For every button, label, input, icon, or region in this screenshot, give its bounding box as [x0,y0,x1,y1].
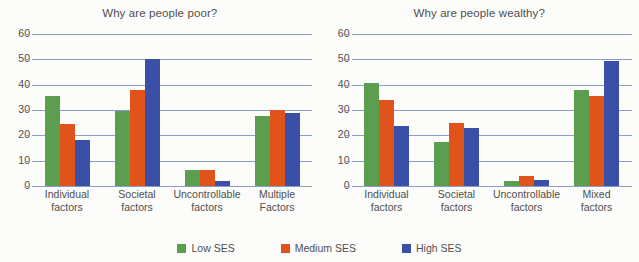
y-axis-tick-mark [25,34,30,35]
bar-medium[interactable] [589,96,604,186]
bar-high[interactable] [285,113,300,186]
bar-group [562,34,632,186]
bar-high[interactable] [604,61,619,186]
category-label-line: factors [352,201,422,214]
category-label: Uncontrollablefactors [492,188,562,228]
category-label: MultipleFactors [242,188,312,228]
bar-high[interactable] [215,181,230,186]
legend-swatch-icon [402,244,411,253]
legend-swatch-icon [177,244,186,253]
category-label-line: factors [422,201,492,214]
bar-group [492,34,562,186]
y-axis-tick-mark [25,186,30,187]
y-axis-tick-mark [25,59,30,60]
chart-panel-wealthy: Why are people wealthy? 0102030405060 In… [320,0,639,228]
bars-area-poor [32,34,312,186]
y-axis-tick-mark [345,59,350,60]
category-label-line: factors [562,201,632,214]
legend-label: High SES [416,242,462,254]
y-axis-tick-mark [345,85,350,86]
category-label-line: Societal [422,188,492,201]
y-axis-tick-label: 0 [8,179,30,191]
gridline [352,186,632,187]
category-label-line: Mixed [562,188,632,201]
chart-panel-poor: Why are people poor? 0102030405060 Indiv… [0,0,320,228]
y-axis-tick-label: 10 [328,154,350,166]
chart-legend: Low SESMedium SESHigh SES [0,242,639,254]
bar-low[interactable] [45,96,60,186]
y-axis-tick-label: 30 [8,103,30,115]
y-axis-tick-mark [345,110,350,111]
y-axis-tick-label: 40 [328,78,350,90]
y-axis-tick-mark [345,135,350,136]
category-label: Individualfactors [32,188,102,228]
category-label-line: Factors [242,201,312,214]
legend-item[interactable]: Low SES [177,242,234,254]
legend-item[interactable]: High SES [402,242,462,254]
y-axis-tick-label: 50 [8,52,30,64]
bar-medium[interactable] [379,100,394,186]
bar-group [352,34,422,186]
bar-high[interactable] [145,59,160,186]
bar-low[interactable] [185,170,200,186]
y-axis-tick-label: 50 [328,52,350,64]
y-axis-tick-label: 40 [8,78,30,90]
bar-group [422,34,492,186]
category-label: Societalfactors [422,188,492,228]
bar-medium[interactable] [200,170,215,186]
category-label: Societalfactors [102,188,172,228]
y-axis-tick-mark [25,110,30,111]
bar-low[interactable] [504,181,519,186]
y-axis-tick-label: 0 [328,179,350,191]
y-axis-poor: 0102030405060 [0,34,30,186]
bar-medium[interactable] [60,124,75,186]
bar-high[interactable] [394,126,409,186]
bar-medium[interactable] [130,90,145,186]
bar-low[interactable] [364,83,379,186]
category-label-line: factors [32,201,102,214]
category-label-line: Multiple [242,188,312,201]
legend-item[interactable]: Medium SES [281,242,356,254]
y-axis-tick-label: 60 [8,27,30,39]
y-axis-wealthy: 0102030405060 [320,34,350,186]
y-axis-tick-mark [345,161,350,162]
y-axis-tick-label: 20 [8,128,30,140]
bar-medium[interactable] [519,176,534,186]
bar-group [102,34,172,186]
y-axis-tick-label: 60 [328,27,350,39]
bar-high[interactable] [75,140,90,186]
category-labels-poor: IndividualfactorsSocietalfactorsUncontro… [32,188,312,228]
legend-swatch-icon [281,244,290,253]
y-axis-tick-mark [345,186,350,187]
category-label-line: Societal [102,188,172,201]
category-label: Mixedfactors [562,188,632,228]
bar-high[interactable] [534,180,549,186]
category-label-line: factors [102,201,172,214]
category-label-line: Individual [352,188,422,201]
bar-high[interactable] [464,128,479,186]
bar-group [32,34,102,186]
legend-label: Medium SES [295,242,356,254]
category-label-line: factors [492,201,562,214]
y-axis-tick-mark [25,85,30,86]
gridline [32,186,312,187]
chart-title-poor: Why are people poor? [0,7,320,19]
bars-area-wealthy [352,34,632,186]
bar-medium[interactable] [270,110,285,186]
category-label-line: Individual [32,188,102,201]
category-label-line: factors [172,201,242,214]
charts-row: Why are people poor? 0102030405060 Indiv… [0,0,639,228]
y-axis-tick-label: 20 [328,128,350,140]
bar-low[interactable] [255,116,270,186]
bar-low[interactable] [434,142,449,186]
bar-group [172,34,242,186]
y-axis-tick-label: 30 [328,103,350,115]
bar-low[interactable] [574,90,589,186]
bar-low[interactable] [115,111,130,186]
category-label-line: Uncontrollable [172,188,242,201]
bar-medium[interactable] [449,123,464,186]
bar-group [242,34,312,186]
y-axis-tick-label: 10 [8,154,30,166]
category-label: Individualfactors [352,188,422,228]
y-axis-tick-mark [25,161,30,162]
